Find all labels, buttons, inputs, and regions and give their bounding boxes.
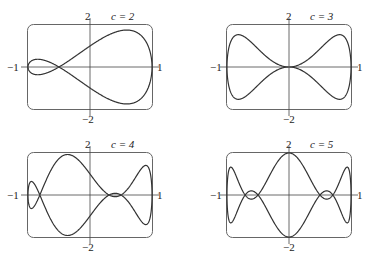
plot-panel-c2: 2 c = 2 −2 −1 1: [27, 24, 153, 110]
x-right-label: 1: [357, 190, 363, 201]
x-left-label: −1: [210, 190, 222, 201]
x-left-label: −1: [7, 62, 19, 73]
plot-panel-c3: 2 c = 3 −2 −1 1: [226, 24, 352, 110]
c-value-label: c = 4: [111, 139, 134, 150]
y-bottom-label: −2: [82, 114, 94, 125]
plot-svg: [226, 152, 352, 238]
plot-svg: [27, 152, 153, 238]
y-bottom-label: −2: [283, 114, 295, 125]
x-left-label: −1: [210, 62, 222, 73]
x-right-label: 1: [157, 190, 163, 201]
plot-panel-c5: 2 c = 5 −2 −1 1: [226, 152, 352, 238]
x-right-label: 1: [157, 62, 163, 73]
y-top-label: 2: [85, 139, 91, 150]
plot-panel-c4: 2 c = 4 −2 −1 1: [27, 152, 153, 238]
y-bottom-label: −2: [283, 242, 295, 253]
c-value-label: c = 2: [111, 11, 134, 22]
x-right-label: 1: [357, 62, 363, 73]
plot-svg: [226, 24, 352, 110]
y-top-label: 2: [286, 139, 292, 150]
y-bottom-label: −2: [82, 242, 94, 253]
c-value-label: c = 3: [310, 11, 333, 22]
plot-svg: [27, 24, 153, 110]
y-top-label: 2: [286, 11, 292, 22]
y-top-label: 2: [85, 11, 91, 22]
x-left-label: −1: [7, 190, 19, 201]
c-value-label: c = 5: [310, 139, 333, 150]
